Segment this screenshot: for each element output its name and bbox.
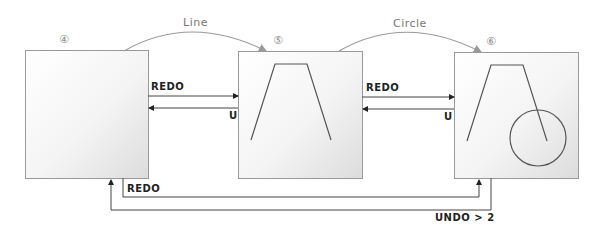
arc-label-circle: Circle [393, 17, 427, 30]
state-box-4 [26, 51, 149, 179]
diagram-canvas [0, 0, 599, 236]
arc-circle [339, 32, 481, 52]
arc-line [124, 32, 266, 51]
undo-label-5-4: U [229, 110, 238, 121]
step-marker-6: ⑥ [486, 35, 496, 48]
undo-arrow-6-4 [111, 178, 491, 210]
state-box-6 [455, 53, 579, 179]
redo-label-4-6: REDO [127, 183, 160, 194]
state-box-5 [239, 52, 363, 179]
step-marker-5: ⑤ [273, 34, 283, 47]
redo-label-5-6: REDO [366, 82, 399, 93]
undo-label-6-5: U [444, 111, 453, 122]
arc-label-line: Line [183, 16, 208, 29]
step-marker-4: ④ [59, 33, 69, 46]
redo-label-4-5: REDO [151, 81, 184, 92]
undo-label-6-4: UNDO > 2 [435, 212, 495, 223]
redo-arrow-4-6 [123, 178, 479, 197]
